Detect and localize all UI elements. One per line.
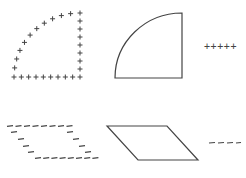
parallelogram-dash-markers xyxy=(7,126,98,159)
dash-marker xyxy=(11,132,17,133)
plus-marker xyxy=(70,75,75,80)
plus-marker xyxy=(63,75,68,80)
dash-marker xyxy=(51,158,57,159)
dash-marker xyxy=(85,152,91,153)
plus-marker xyxy=(78,43,83,48)
dash-marker xyxy=(73,139,79,140)
plus-marker xyxy=(50,16,55,21)
dash-marker xyxy=(76,158,82,159)
plus-marker xyxy=(78,35,83,40)
plus-marker xyxy=(19,75,24,80)
plus-marker xyxy=(78,59,83,64)
plus-marker xyxy=(68,11,73,16)
plus-marker xyxy=(78,19,83,24)
diagram-canvas: +++++ xyxy=(0,0,246,178)
dash-marker xyxy=(28,152,34,153)
dash-marker xyxy=(58,126,64,127)
dash-marker xyxy=(24,126,30,127)
dash-marker xyxy=(41,126,47,127)
dash-marker xyxy=(33,126,39,127)
dash-marker xyxy=(60,158,66,159)
plus-marker xyxy=(34,26,39,31)
dash-marker xyxy=(35,158,41,159)
dash-marker xyxy=(18,139,24,140)
plus-marker xyxy=(42,21,47,26)
plus-marker xyxy=(14,56,19,61)
parallelogram-solid xyxy=(107,126,198,160)
plus-marker xyxy=(12,65,17,70)
dash-marker xyxy=(67,126,73,127)
plus-marker xyxy=(41,75,46,80)
dash-marker xyxy=(92,158,98,159)
dash-marker xyxy=(84,158,90,159)
plus-marker xyxy=(78,67,83,72)
plus-marker xyxy=(78,27,83,32)
plus-marker xyxy=(22,40,27,45)
plus-marker xyxy=(12,75,17,80)
dash-marker xyxy=(67,132,73,133)
quarter-circle-plus-markers xyxy=(12,11,83,80)
plus-marker-row: +++++ xyxy=(204,41,237,52)
plus-marker xyxy=(17,48,22,53)
plus-marker xyxy=(78,11,83,16)
plus-marker xyxy=(26,75,31,80)
quarter-circle-solid xyxy=(115,13,182,78)
plus-marker xyxy=(28,33,33,38)
dash-marker xyxy=(23,146,29,147)
dash-marker-row xyxy=(209,143,241,144)
plus-marker xyxy=(78,51,83,56)
dash-marker xyxy=(79,146,85,147)
dash-marker xyxy=(68,158,74,159)
dash-marker xyxy=(7,126,13,127)
plus-marker xyxy=(56,75,61,80)
dash-marker xyxy=(43,158,49,159)
dash-marker xyxy=(16,126,22,127)
plus-marker xyxy=(59,13,64,18)
plus-marker xyxy=(78,75,83,80)
plus-marker xyxy=(48,75,53,80)
dash-marker xyxy=(50,126,56,127)
plus-marker xyxy=(34,75,39,80)
